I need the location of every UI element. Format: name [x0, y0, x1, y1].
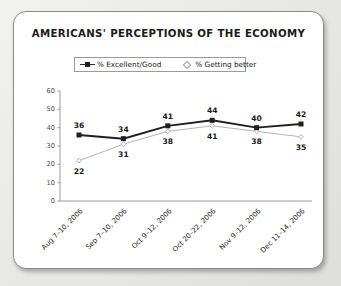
y-axis-tick-label: 40 — [39, 124, 55, 132]
data-label-excellent-good: 34 — [112, 125, 134, 134]
data-label-excellent-good: 42 — [290, 110, 312, 119]
y-axis-tick-label: 0 — [39, 197, 55, 205]
data-label-getting-better: 38 — [246, 137, 268, 146]
y-axis-tick-label: 20 — [39, 160, 55, 168]
y-axis-tick-label: 50 — [39, 105, 55, 113]
data-label-getting-better: 38 — [157, 137, 179, 146]
data-label-getting-better: 35 — [290, 143, 312, 152]
data-label-getting-better: 41 — [201, 132, 223, 141]
data-label-excellent-good: 44 — [201, 106, 223, 115]
data-label-getting-better: 22 — [68, 167, 90, 176]
data-label-excellent-good: 36 — [68, 121, 90, 130]
data-label-getting-better: 31 — [112, 150, 134, 159]
y-axis-tick-label: 10 — [39, 179, 55, 187]
y-axis-tick-label: 60 — [39, 87, 55, 95]
data-label-excellent-good: 40 — [246, 114, 268, 123]
chart-card: AMERICANS' PERCEPTIONS OF THE ECONOMY % … — [13, 11, 324, 269]
data-label-excellent-good: 41 — [157, 112, 179, 121]
y-axis-tick-label: 30 — [39, 142, 55, 150]
plot-area: 6050403020100 363441444042223138413835 A… — [14, 12, 325, 270]
